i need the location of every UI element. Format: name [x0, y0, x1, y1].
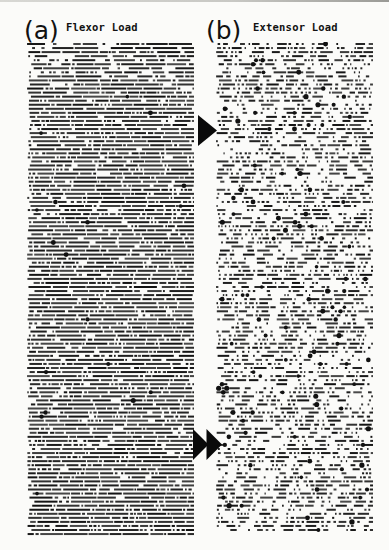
panel-a-label: (a): [24, 18, 59, 43]
panel-a-spike-raster: [27, 42, 194, 536]
panel-a-title: Flexor Load: [66, 21, 138, 33]
page-top-edge: [0, 0, 389, 2]
single-arrowhead-icon: [198, 115, 217, 146]
panel-b-label: (b): [206, 18, 241, 43]
double-arrowhead-icon: [193, 429, 222, 460]
panel-b-title: Extensor Load: [253, 21, 338, 33]
panel-b-spike-raster: [216, 42, 373, 534]
